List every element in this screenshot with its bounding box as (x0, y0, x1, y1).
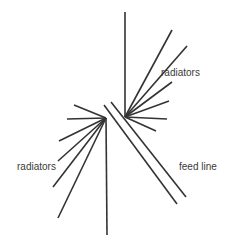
lower-radiators-label: radiators (17, 162, 56, 172)
radiator-line (125, 117, 167, 119)
radiator-line (58, 118, 106, 161)
radiator-line (74, 105, 106, 118)
radiator-line (59, 118, 106, 141)
feed-line-conductor (104, 105, 177, 204)
feed-line-label: feed line (179, 162, 217, 172)
radiator-line (53, 118, 106, 187)
radiator-line (106, 118, 107, 235)
radiator-line (67, 118, 106, 119)
feed-line-conductor (111, 102, 186, 197)
upper-radiators-label: radiators (161, 68, 200, 78)
antenna-diagram: radiators radiators feed line (0, 0, 226, 249)
antenna-drawing (0, 0, 226, 249)
radiator-line (58, 118, 106, 218)
radiator-line (125, 117, 156, 131)
radiator-line (125, 82, 172, 117)
lower-radiator-group (53, 105, 107, 235)
